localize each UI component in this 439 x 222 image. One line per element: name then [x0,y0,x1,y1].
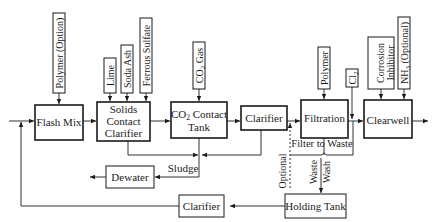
unit-clearwell: Clearwell [364,100,412,138]
process-flow-diagram: Polymer (Option) Lime Soda Ash Ferrous S… [0,0,439,222]
unit-filtration: Filtration [301,100,348,138]
chemical-label: Polymer (Option) [54,18,66,89]
unit-co2-contact-tank: CO2 Contact Tank [171,102,227,138]
unit-solids-contact-clarifier: Solids Contact Clarifier [97,102,150,141]
chemical-cl2: Cl2 [346,69,360,87]
chemical-nh3-optional: NH3 (Optional) [398,17,412,89]
chemical-label: Inhibitor [385,45,396,81]
chemical-label: Lime [105,64,116,86]
unit-label: Contact [106,115,140,127]
wash-label: Wash [321,161,332,183]
unit-label: Flash Mix [37,116,82,128]
unit-label: Filtration [304,112,345,124]
unit-label: Holding Tank [285,200,346,212]
chemical-corrosion-inhibitor: Corrosion Inhibitor [368,37,396,89]
unit-label: Solids [110,103,138,115]
unit-label: CO2 Contact [171,108,227,122]
chemical-label: Polymer [319,50,330,85]
chemical-polymer-option: Polymer (Option) [53,13,66,93]
chemical-label: Ferrous Sulfate [141,24,152,86]
unit-label: Clarifier [245,112,283,124]
chemical-co2-gas: CO2 Gas [193,42,207,89]
unit-holding-tank: Holding Tank [285,194,346,218]
chemical-ferrous-sulfate: Ferrous Sulfate [140,18,152,93]
unit-clarifier: Clarifier [241,106,287,130]
unit-dewater: Dewater [106,166,154,188]
unit-recycle-clarifier: Clarifier [179,195,224,217]
unit-label: Clarifier [183,200,221,212]
sludge-label: Sludge [168,162,199,174]
chemical-soda-ash: Soda Ash [121,45,133,93]
optional-label: Optional [277,153,288,188]
unit-label: Clarifier [105,127,143,139]
unit-label: Clearwell [367,114,410,126]
filter-to-waste-label: Filter to Waste [291,138,353,149]
waste-label: Waste [308,159,319,184]
unit-label: Dewater [111,171,149,183]
unit-label: Tank [188,121,210,133]
chemical-polymer: Polymer [318,47,330,89]
chemical-lime: Lime [104,58,116,93]
chemical-label: Soda Ash [122,50,133,88]
unit-flash-mix: Flash Mix [35,105,83,140]
